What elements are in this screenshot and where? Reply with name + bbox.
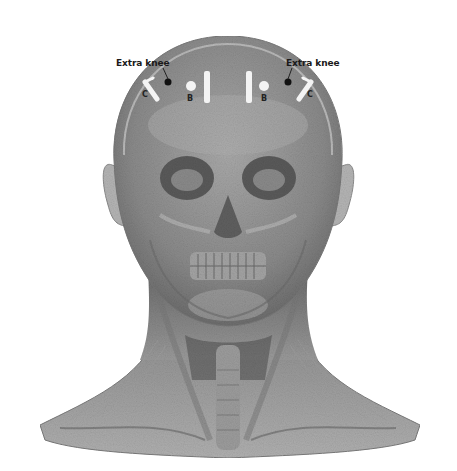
trachea bbox=[216, 345, 240, 450]
left-b-letter: B bbox=[187, 94, 193, 103]
right-bar-marker bbox=[246, 71, 252, 103]
right-b-marker bbox=[259, 81, 269, 91]
right-b-letter: B bbox=[261, 94, 267, 103]
left-bar-marker bbox=[204, 71, 210, 103]
left-extra-knee-dot bbox=[165, 79, 172, 86]
right-c-letter: C bbox=[307, 90, 313, 99]
left-c-letter: C bbox=[142, 90, 148, 99]
left-b-marker bbox=[186, 81, 196, 91]
right-extra-knee-dot bbox=[285, 79, 292, 86]
right-extra-knee-label: Extra knee bbox=[286, 58, 340, 68]
anatomy-figure: Extra knee C B Extra knee B C bbox=[0, 0, 457, 471]
head-neck-illustration bbox=[0, 0, 457, 471]
left-extra-knee-label: Extra knee bbox=[116, 58, 170, 68]
